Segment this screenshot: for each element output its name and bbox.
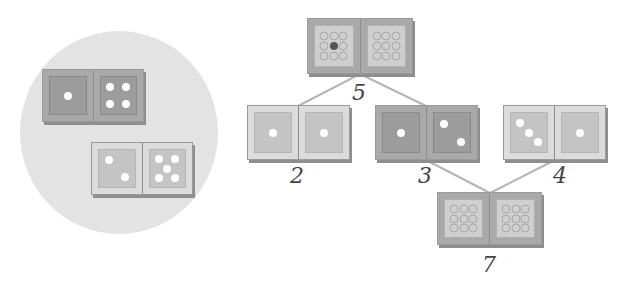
domino-3-1 [503, 105, 606, 160]
domino-bottom-mystery [437, 192, 542, 245]
domino-1-2 [375, 105, 478, 160]
label-top: 5 [352, 80, 366, 105]
domino-half-mystery-right [360, 19, 413, 73]
domino-half-mystery-left [308, 19, 360, 73]
label-left-child: 2 [290, 163, 304, 188]
label-bottom: 7 [482, 252, 496, 277]
domino-1-1 [247, 105, 350, 160]
label-middle-child: 3 [418, 163, 432, 188]
domino-top-mystery [307, 18, 413, 74]
label-right-child: 4 [553, 163, 567, 188]
